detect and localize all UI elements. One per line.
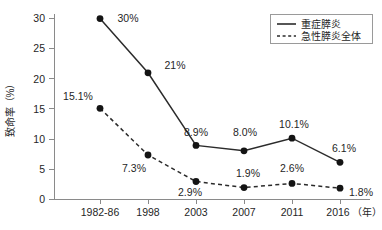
data-label-severe-1998: 21% [164, 59, 185, 71]
chart-legend: 重症膵炎 急性膵炎全体 [270, 14, 372, 43]
x-tick-label-2003: 2003 [184, 206, 208, 218]
x-tick-label-1998: 1998 [136, 206, 160, 218]
y-axis-ticks [49, 19, 54, 199]
y-tick-label-25: 25 [33, 42, 45, 54]
data-label-acute-1982-86: 15.1% [63, 90, 93, 102]
data-label-acute-2016: 1.8% [349, 186, 373, 198]
x-axis-ticks [100, 199, 340, 204]
y-tick-label-15: 15 [33, 103, 45, 115]
y-tick-label-30: 30 [33, 12, 45, 24]
data-label-severe-1982-86: 30% [117, 12, 138, 24]
pancreatitis-mortality-chart: 30 25 20 15 10 5 0 1982-86 1998 2003 200… [0, 0, 382, 230]
data-label-acute-2007: 1.9% [236, 167, 260, 179]
data-label-severe-2016: 6.1% [332, 142, 356, 154]
chart-svg: 30 25 20 15 10 5 0 1982-86 1998 2003 200… [0, 0, 382, 230]
x-tick-label-2011: 2011 [281, 206, 304, 218]
x-tick-label-2007: 2007 [232, 206, 256, 218]
data-label-acute-2003: 2.9% [178, 186, 202, 198]
data-label-severe-2007: 8.0% [233, 126, 257, 138]
data-label-acute-1998: 7.3% [122, 162, 146, 174]
legend-label-acute-pancreatitis-total: 急性膵炎全体 [301, 30, 361, 42]
data-label-severe-2011: 10.1% [279, 118, 309, 130]
legend-label-severe-pancreatitis: 重症膵炎 [301, 18, 341, 30]
x-tick-label-1982-86: 1982-86 [81, 206, 120, 218]
y-tick-label-10: 10 [33, 133, 45, 145]
data-label-acute-2011: 2.6% [280, 162, 304, 174]
x-axis-unit-label: （年） [352, 206, 382, 218]
x-tick-label-2016: 2016 [326, 206, 350, 218]
y-tick-label-0: 0 [39, 193, 45, 205]
y-tick-label-20: 20 [33, 73, 45, 85]
data-label-severe-2003: 8.9% [184, 126, 208, 138]
y-axis-title: 致命率（%） [4, 79, 16, 138]
y-tick-label-5: 5 [39, 163, 45, 175]
